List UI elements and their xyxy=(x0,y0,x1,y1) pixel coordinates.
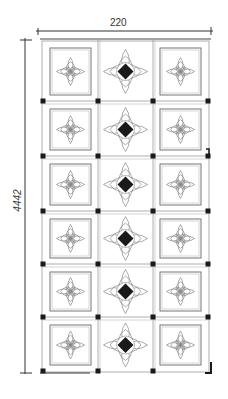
rosette-ornament xyxy=(57,58,85,86)
corner-block xyxy=(206,262,211,267)
corner-block xyxy=(151,369,156,374)
corner-block xyxy=(41,209,46,214)
corner-block xyxy=(96,315,101,320)
corner-block xyxy=(206,99,211,104)
corner-block xyxy=(41,315,46,320)
rosette-ornament xyxy=(57,225,85,253)
corner-block xyxy=(96,154,101,159)
corner-block xyxy=(151,154,156,159)
corner-block xyxy=(151,209,156,214)
corner-block xyxy=(151,99,156,104)
corner-block xyxy=(151,315,156,320)
corner-block xyxy=(41,99,46,104)
corner-bracket xyxy=(205,362,211,373)
corner-block xyxy=(96,262,101,267)
rosette-ornament xyxy=(167,331,195,359)
corner-block xyxy=(41,154,46,159)
rosette-ornament xyxy=(57,278,85,306)
rosette-ornament xyxy=(167,278,195,306)
corner-block xyxy=(41,262,46,267)
rosette-ornament xyxy=(57,171,85,199)
corner-block xyxy=(151,262,156,267)
corner-block xyxy=(206,209,211,214)
rosette-ornament xyxy=(57,116,85,144)
rosette-ornament xyxy=(167,225,195,253)
rosette-ornament xyxy=(57,331,85,359)
rosette-ornament xyxy=(167,171,195,199)
rosette-ornament xyxy=(167,58,195,86)
corner-block xyxy=(96,209,101,214)
rosette-ornament xyxy=(167,116,195,144)
corner-block xyxy=(206,315,211,320)
corner-block xyxy=(96,99,101,104)
panel-drawing xyxy=(0,0,228,399)
corner-block xyxy=(96,369,101,374)
